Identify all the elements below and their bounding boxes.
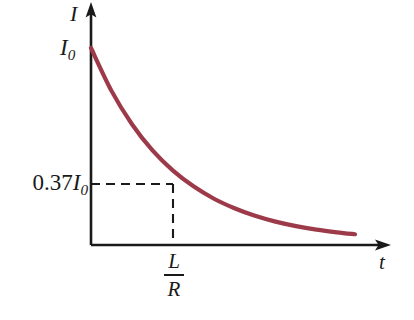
guide-lines [91, 184, 173, 245]
y-tick-label-decay-value: 0.37I0 [32, 171, 88, 197]
decay-value-prefix: 0.37 [32, 170, 72, 195]
figure-canvas: I t I0 0.37I0 L R [0, 0, 414, 320]
decay-value-subscript: 0 [80, 181, 88, 198]
initial-current-symbol: I [60, 35, 68, 60]
initial-current-subscript: 0 [68, 46, 76, 63]
time-constant-numerator: L [160, 250, 188, 272]
y-axis [86, 2, 97, 245]
x-tick-label-time-constant: L R [160, 250, 188, 300]
fraction-bar-icon [164, 274, 184, 276]
x-axis [91, 239, 391, 250]
y-tick-label-initial-current: I0 [60, 36, 75, 62]
x-axis-label: t [379, 252, 385, 273]
time-constant-denominator: R [160, 278, 188, 300]
y-axis-label: I [70, 3, 77, 25]
decay-curve [91, 48, 355, 234]
